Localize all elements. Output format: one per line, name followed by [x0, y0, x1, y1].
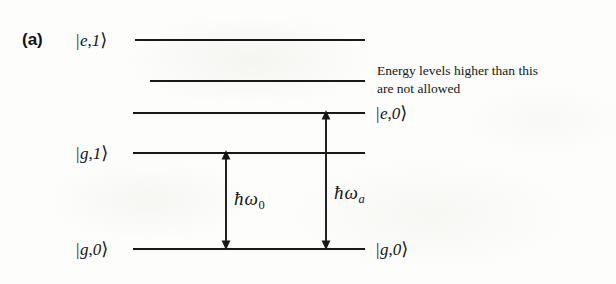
state-label-g0-left: |g,0⟩ — [76, 240, 108, 258]
transition-arrow-omega-a — [317, 110, 335, 250]
omega-symbol: ω — [244, 188, 258, 209]
annotation-line-1: Energy levels higher than this — [377, 62, 592, 80]
hbar-symbol: ħ — [334, 182, 344, 203]
ket-photon-number: 0 — [393, 240, 402, 259]
state-label-e1-left: |e,1⟩ — [76, 31, 107, 49]
state-label-g0-right: |g,0⟩ — [376, 240, 408, 258]
panel-label-a: (a) — [22, 30, 43, 50]
state-label-e0-right: |e,0⟩ — [376, 104, 407, 122]
hbar-symbol: ħ — [234, 188, 244, 209]
omega-subscript: 0 — [258, 198, 265, 212]
annotation-no-higher-levels: Energy levels higher than this are not a… — [377, 62, 592, 98]
omega-symbol: ω — [344, 182, 358, 203]
omega-subscript: a — [358, 192, 365, 206]
ket-close-bracket: ⟩ — [400, 103, 407, 123]
ket-photon-number: 1 — [93, 144, 102, 163]
energy-level-line-e1 — [135, 39, 365, 41]
ket-close-bracket: ⟩ — [101, 143, 108, 163]
ket-photon-number: 0 — [93, 240, 102, 259]
transition-energy-label-omega-0: ħω0 — [234, 189, 265, 211]
energy-level-line-unlabeled-upper — [150, 80, 365, 82]
ket-close-bracket: ⟩ — [100, 30, 107, 50]
annotation-line-2: are not allowed — [377, 80, 592, 98]
transition-energy-label-omega-a: ħωa — [334, 183, 365, 205]
ket-close-bracket: ⟩ — [401, 239, 408, 259]
energy-level-diagram: (a) |e,1⟩ |g,1⟩ |g,0⟩ |e,0⟩ |g,0⟩ Energy… — [0, 0, 616, 284]
ket-close-bracket: ⟩ — [101, 239, 108, 259]
transition-arrow-omega-0 — [217, 150, 235, 250]
ket-photon-number: 1 — [92, 31, 101, 50]
ket-photon-number: 0 — [392, 104, 401, 123]
state-label-g1-left: |g,1⟩ — [76, 144, 108, 162]
